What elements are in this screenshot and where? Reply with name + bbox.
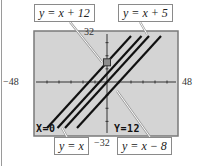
legend-label-y-x-minus-8: y = x − 8: [117, 137, 172, 155]
y-max-tick-label: 32: [84, 26, 94, 37]
y-min-tick-label: −32: [94, 137, 110, 148]
x-min-tick-label: −48: [3, 76, 19, 87]
trace-cursor: [104, 59, 111, 66]
legend-label-y-x-plus-5: y = x + 5: [118, 4, 173, 22]
legend-label-y-x: y = x: [54, 137, 89, 155]
x-max-tick-label: 48: [182, 76, 192, 87]
trace-x-readout: X=0: [36, 123, 56, 134]
legend-label-y-x-plus-12: y = x + 12: [34, 4, 95, 22]
trace-y-readout: Y=12: [114, 123, 140, 134]
